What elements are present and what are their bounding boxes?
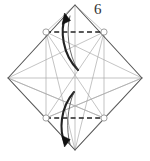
step-number-label: 6 bbox=[94, 2, 102, 17]
reference-marker-upper-left bbox=[43, 29, 49, 35]
reference-marker-lower-right bbox=[101, 115, 107, 121]
origami-step-figure: 6 bbox=[0, 0, 150, 161]
reference-marker-lower-left bbox=[43, 115, 49, 121]
origami-diagram bbox=[0, 0, 150, 161]
reference-marker-upper-right bbox=[101, 29, 107, 35]
